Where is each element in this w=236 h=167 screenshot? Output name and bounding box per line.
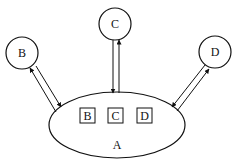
svg-text:B: B xyxy=(83,109,91,123)
arrow-a-to-b xyxy=(30,68,56,112)
node-b: B xyxy=(6,37,38,69)
inner-box-c: C xyxy=(108,108,123,123)
node-a-label: A xyxy=(113,138,122,152)
connection-a-c xyxy=(113,40,119,93)
node-c: C xyxy=(99,8,131,40)
inner-box-d: D xyxy=(137,108,152,123)
node-d: D xyxy=(199,36,231,68)
arrow-b-to-a xyxy=(36,66,61,107)
arrow-d-to-a xyxy=(172,65,205,107)
inner-box-b: B xyxy=(80,108,95,123)
svg-text:D: D xyxy=(140,109,149,123)
svg-text:C: C xyxy=(111,109,119,123)
svg-text:B: B xyxy=(18,46,26,60)
svg-text:D: D xyxy=(211,45,220,59)
diagram-canvas: A B C D B C D xyxy=(0,0,236,167)
connection-a-b xyxy=(30,66,61,112)
svg-text:C: C xyxy=(111,17,119,31)
arrow-a-to-d xyxy=(177,69,209,111)
connection-a-d xyxy=(172,65,209,111)
node-a: A xyxy=(49,92,185,158)
